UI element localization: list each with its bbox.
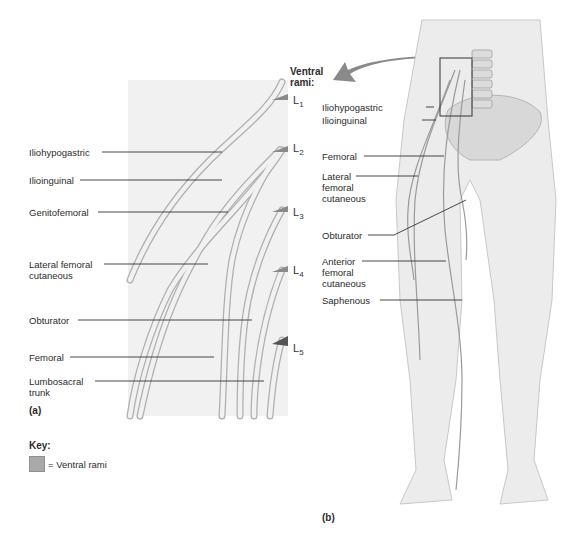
label-genitofemoral-a: Genitofemoral	[29, 207, 89, 218]
caption-b: (b)	[322, 512, 335, 523]
label-saphenous-b: Saphenous	[322, 295, 370, 306]
label-line: femoral	[322, 267, 366, 278]
label-line: Lumbosacral	[29, 376, 83, 387]
header-line: Ventral	[290, 66, 323, 77]
level-l5: L5	[293, 342, 304, 357]
label-iliohypogastric-b: Iliohypogastric	[322, 102, 383, 113]
label-line: cutaneous	[29, 270, 92, 281]
header-line: rami:	[290, 77, 323, 88]
key-label: = Ventral rami	[48, 459, 107, 470]
label-iliohypogastric-a: Iliohypogastric	[29, 147, 90, 158]
label-obturator-a: Obturator	[29, 315, 69, 326]
label-ilioinguinal-a: Ilioinguinal	[29, 175, 74, 186]
label-lumbosacral-trunk-a: Lumbosacral trunk	[29, 376, 83, 398]
level-l4: L4	[293, 264, 304, 279]
label-femoral-b: Femoral	[322, 151, 357, 162]
label-femoral-a: Femoral	[29, 352, 64, 363]
ventral-rami-header: Ventral rami:	[290, 66, 323, 88]
level-l1: L1	[293, 94, 304, 109]
label-ilioinguinal-b: Ilioinguinal	[322, 115, 367, 126]
key-title: Key:	[29, 440, 51, 451]
level-l2: L2	[293, 142, 304, 157]
label-lateral-femoral-cutaneous-b: Lateral femoral cutaneous	[322, 171, 366, 204]
label-line: cutaneous	[322, 278, 366, 289]
label-lateral-femoral-cutaneous-a: Lateral femoral cutaneous	[29, 259, 92, 281]
label-obturator-b: Obturator	[322, 230, 362, 241]
ventral-rami-swatch	[29, 456, 45, 472]
caption-a: (a)	[29, 405, 41, 416]
label-line: Lateral femoral	[29, 259, 92, 270]
label-line: femoral	[322, 182, 366, 193]
label-line: Anterior	[322, 256, 366, 267]
label-line: Lateral	[322, 171, 366, 182]
label-anterior-femoral-cutaneous-b: Anterior femoral cutaneous	[322, 256, 366, 289]
level-l3: L3	[293, 206, 304, 221]
label-line: cutaneous	[322, 193, 366, 204]
label-line: trunk	[29, 387, 83, 398]
